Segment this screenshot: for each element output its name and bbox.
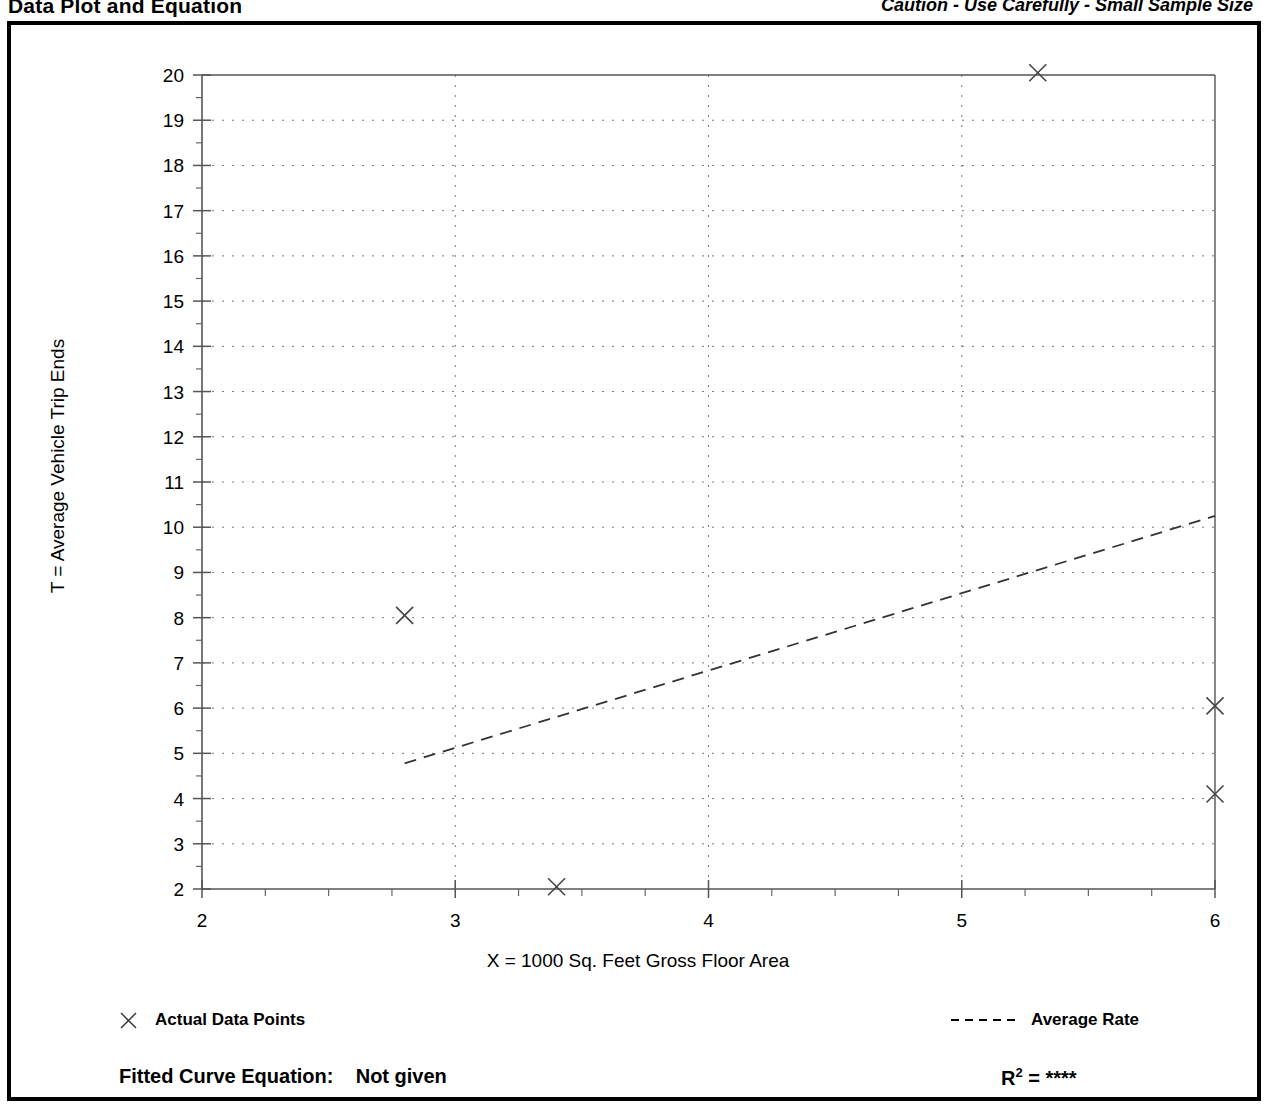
y-tick-label: 5 [173, 743, 184, 764]
data-point-marker [1029, 64, 1046, 81]
y-tick-label: 4 [173, 789, 184, 810]
equation-value: Not given [356, 1065, 447, 1087]
fitted-curve-equation: Fitted Curve Equation: Not given [119, 1065, 447, 1088]
equation-label: Fitted Curve Equation: [119, 1065, 333, 1087]
y-tick-label: 7 [173, 653, 184, 674]
y-tick-label: 3 [173, 834, 184, 855]
x-axis-ticks: 23456 [197, 880, 1221, 931]
r-squared-value: R2 = **** [1001, 1065, 1077, 1090]
legend-label-data-points: Actual Data Points [155, 1010, 305, 1030]
x-tick-label: 5 [956, 910, 967, 931]
x-marker-icon [119, 1011, 138, 1030]
y-tick-label: 19 [163, 110, 184, 131]
chart-legend: Actual Data Points Average Rate [11, 1010, 1265, 1050]
caution-note: Caution - Use Carefully - Small Sample S… [881, 0, 1253, 16]
x-tick-label: 3 [450, 910, 461, 931]
page-header: Data Plot and Equation Caution - Use Car… [0, 0, 1271, 20]
y-tick-label: 16 [163, 246, 184, 267]
data-point-marker [548, 878, 565, 895]
trend-line [405, 516, 1215, 763]
chart-container: T = Average Vehicle Trip Ends X = 1000 S… [11, 25, 1265, 1105]
y-tick-label: 12 [163, 427, 184, 448]
r-squared-stars: **** [1046, 1067, 1077, 1089]
y-axis-ticks: 234567891011121314151617181920 [163, 65, 211, 900]
y-tick-label: 2 [173, 879, 184, 900]
data-point-marker [396, 607, 413, 624]
data-points [396, 64, 1223, 895]
dashed-line-icon [951, 1019, 1015, 1021]
average-rate-line [405, 516, 1215, 763]
y-tick-label: 18 [163, 155, 184, 176]
y-tick-label: 8 [173, 608, 184, 629]
legend-item-average-rate: Average Rate [951, 1010, 1139, 1030]
scatter-plot: 23456789101112131415161718192023456 [11, 25, 1265, 985]
r-squared-label: R [1001, 1067, 1015, 1089]
y-tick-label: 13 [163, 382, 184, 403]
y-tick-label: 17 [163, 201, 184, 222]
y-tick-label: 14 [163, 336, 185, 357]
legend-label-average-rate: Average Rate [1031, 1010, 1139, 1030]
y-tick-label: 10 [163, 517, 184, 538]
y-tick-label: 6 [173, 698, 184, 719]
equation-row: Fitted Curve Equation: Not given R2 = **… [11, 1065, 1265, 1105]
x-tick-label: 2 [197, 910, 208, 931]
page-title: Data Plot and Equation [8, 0, 242, 18]
x-tick-label: 4 [703, 910, 714, 931]
legend-item-data-points: Actual Data Points [119, 1010, 305, 1030]
grid-lines [202, 75, 1215, 889]
y-tick-label: 9 [173, 562, 184, 583]
r-squared-equals: = [1028, 1067, 1040, 1089]
y-tick-label: 11 [164, 472, 184, 493]
y-tick-label: 15 [163, 291, 184, 312]
y-tick-label: 20 [163, 65, 184, 86]
r-squared-exponent: 2 [1015, 1065, 1022, 1080]
chart-panel: T = Average Vehicle Trip Ends X = 1000 S… [7, 21, 1261, 1101]
x-tick-label: 6 [1210, 910, 1221, 931]
